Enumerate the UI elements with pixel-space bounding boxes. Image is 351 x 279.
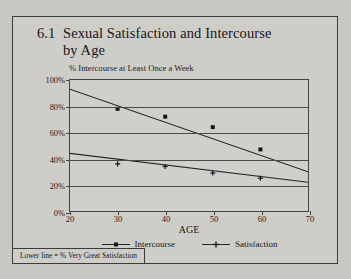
x-axis-title: AGE — [69, 224, 309, 235]
y-axis-tick-label: 80% — [50, 102, 65, 111]
figure-title: 6.1Sexual Satisfaction and Intercourse b… — [37, 25, 317, 59]
title-line-2: by Age — [37, 42, 317, 59]
gridline-y — [70, 186, 308, 187]
gridline-y — [70, 160, 308, 161]
y-axis-tick — [66, 107, 70, 108]
y-axis-tick-label: 60% — [50, 129, 65, 138]
gridline-y — [70, 133, 308, 134]
legend-label-satisfaction: Satisfaction — [235, 239, 278, 249]
y-axis-tick-label: 20% — [50, 182, 65, 191]
trendlines-svg — [70, 80, 308, 211]
data-point — [258, 147, 262, 151]
x-axis-tick — [262, 211, 263, 215]
y-axis-tick — [66, 80, 70, 81]
title-line-1: 6.1Sexual Satisfaction and Intercourse — [37, 25, 317, 42]
legend-marker-plus-icon — [201, 240, 231, 249]
legend-item-satisfaction: Satisfaction — [201, 239, 278, 249]
data-point — [115, 161, 120, 166]
plot-area: 0%20%40%60%80%100%203040506070 — [69, 79, 309, 212]
x-axis-tick — [310, 211, 311, 215]
footnote: Lower line = % Very Great Satisfaction — [12, 248, 145, 264]
x-axis-tick — [166, 211, 167, 215]
x-axis-tick — [70, 211, 71, 215]
data-point — [163, 115, 167, 119]
x-axis-tick — [214, 211, 215, 215]
title-text-1: Sexual Satisfaction and Intercourse — [63, 25, 271, 41]
x-axis-tick — [118, 211, 119, 215]
x-axis-tick-label: 70 — [306, 215, 314, 224]
trendline-satisfaction — [70, 153, 308, 182]
figure-number: 6.1 — [37, 25, 63, 42]
y-axis-tick-label: 100% — [45, 76, 65, 85]
y-axis-tick-label: 40% — [50, 155, 65, 164]
x-axis-tick-label: 50 — [210, 215, 218, 224]
y-axis-tick — [66, 133, 70, 134]
gridline-y — [70, 107, 308, 108]
x-axis-tick-label: 30 — [114, 215, 122, 224]
y-axis-tick-label: 0% — [54, 209, 65, 218]
x-axis-tick-label: 20 — [66, 215, 74, 224]
figure-panel: 6.1Sexual Satisfaction and Intercourse b… — [12, 16, 338, 264]
x-axis-tick-label: 60 — [258, 215, 266, 224]
y-axis-tick — [66, 186, 70, 187]
data-point — [211, 125, 215, 129]
x-axis-tick-label: 40 — [162, 215, 170, 224]
chart-subtitle: % Intercourse at Least Once a Week — [69, 63, 194, 73]
y-axis-tick — [66, 160, 70, 161]
